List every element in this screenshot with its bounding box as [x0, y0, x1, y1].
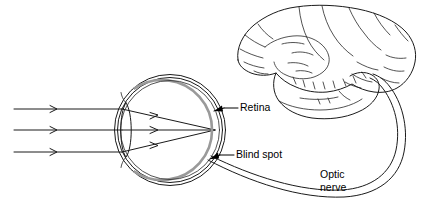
label-blind-spot: Blind spot	[210, 148, 282, 160]
label-retina: Retina	[214, 101, 271, 113]
refracted-ray-top	[122, 109, 215, 130]
light-rays	[14, 106, 122, 156]
label-blind-spot-text: Blind spot	[236, 148, 282, 160]
light-ray-middle	[14, 127, 122, 134]
eye-brain-diagram: Retina Blind spot Optic nerve	[0, 0, 425, 206]
light-ray-top	[14, 106, 122, 113]
refracted-rays	[122, 109, 215, 152]
label-optic-nerve-line1: Optic	[320, 168, 345, 180]
label-optic-nerve-line2: nerve	[320, 181, 346, 193]
refracted-ray-bottom	[122, 130, 215, 152]
label-retina-text: Retina	[240, 101, 271, 113]
light-ray-bottom	[14, 149, 122, 156]
label-optic-nerve: Optic nerve	[320, 168, 346, 193]
figure-root: Retina Blind spot Optic nerve	[0, 0, 425, 206]
refracted-ray-middle	[122, 127, 215, 134]
